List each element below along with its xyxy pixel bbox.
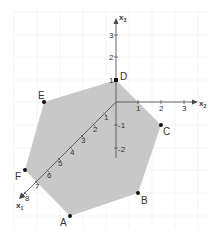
- label-b: B: [141, 195, 148, 206]
- coordinate-diagram: 3 2 1 -1 -2 1 2 3 1 2 3 4 5 6 7 8 x3 x2 …: [0, 0, 218, 241]
- point-a: [68, 214, 72, 218]
- x3-axis-label: x3: [119, 13, 126, 23]
- x2-tick-3: 3: [182, 104, 187, 113]
- x1-tick-7: 7: [35, 182, 40, 191]
- point-d: [114, 78, 118, 82]
- x1-tick-6: 6: [47, 171, 52, 180]
- x1-tick-2: 2: [93, 125, 98, 134]
- x2-tick-2: 2: [159, 104, 164, 113]
- x3-tick-neg2: -2: [118, 145, 126, 154]
- label-e: E: [38, 90, 45, 101]
- label-c: C: [163, 126, 170, 137]
- x1-tick-5: 5: [58, 159, 63, 168]
- point-f: [23, 168, 27, 172]
- x1-tick-8: 8: [25, 194, 30, 203]
- x3-tick-1: 1: [109, 76, 114, 85]
- label-d: D: [120, 71, 127, 82]
- label-f: F: [15, 171, 21, 182]
- x2-arrow-icon: [192, 100, 198, 105]
- x3-arrow-icon: [114, 18, 119, 24]
- point-b: [136, 191, 140, 195]
- x1-tick-3: 3: [81, 136, 86, 145]
- x1-axis-label: x1: [16, 201, 23, 211]
- x3-tick-2: 2: [109, 53, 114, 62]
- x1-tick-4: 4: [70, 148, 75, 157]
- x2-tick-1: 1: [136, 104, 141, 113]
- x3-tick-neg1: -1: [118, 121, 126, 130]
- x3-tick-3: 3: [109, 31, 114, 40]
- x2-axis-label: x2: [199, 99, 206, 109]
- x1-tick-1: 1: [104, 113, 109, 122]
- label-a: A: [60, 217, 67, 228]
